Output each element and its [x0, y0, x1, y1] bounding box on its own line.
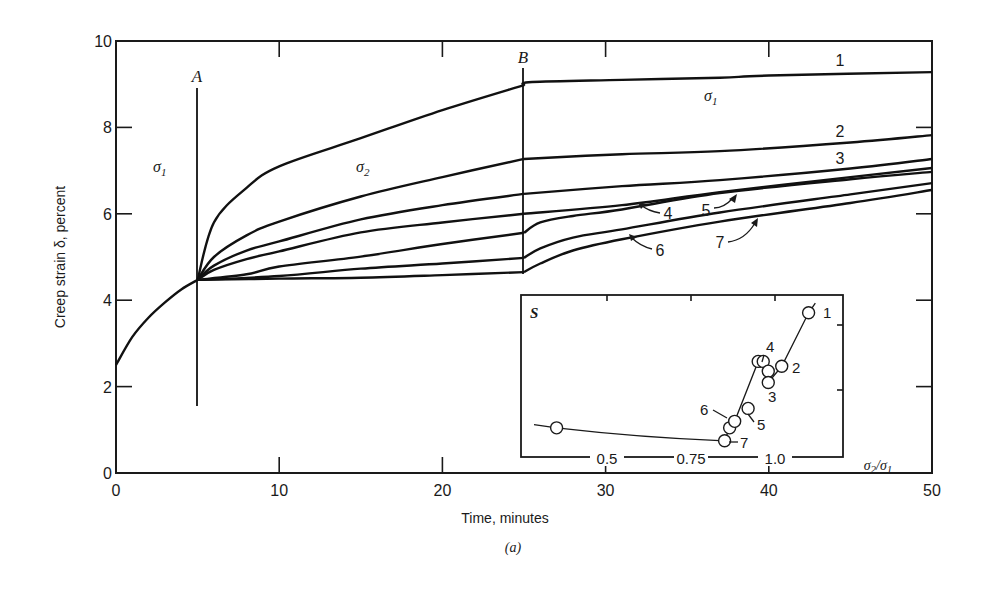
inset-point-marker — [551, 422, 563, 434]
inset-label-6: 6 — [700, 401, 708, 418]
curve-4-sigma2 — [198, 214, 524, 280]
curve-3-sigma2 — [198, 194, 524, 280]
inset-x-tick-label: 0.5 — [597, 450, 618, 467]
inset-label-3: 3 — [768, 388, 776, 405]
curve-label-1: 1 — [836, 52, 845, 69]
x-tick-label: 50 — [923, 482, 941, 499]
sigma1-right-label: σ1 — [704, 87, 717, 107]
y-tick-label: 6 — [103, 206, 112, 223]
inset-point-marker — [776, 360, 788, 372]
marker-label-b: B — [518, 48, 529, 67]
inset-y-label: S — [530, 305, 538, 321]
inset-point-marker — [729, 415, 741, 427]
inset-label-1: 1 — [823, 304, 831, 321]
chart-canvas: 01020304050 0246810 Time, minutes (a) Cr… — [0, 0, 984, 592]
inset-plot: 0.50.751.0 S σ2/σ1 1 2 3 4 5 6 7 — [521, 295, 892, 475]
y-tick-label: 10 — [94, 33, 112, 50]
curve-label-7: 7 — [716, 234, 725, 251]
arrowhead-6-icon — [629, 234, 637, 241]
curve-1-sigma1 — [522, 72, 932, 85]
y-axis-label: Creep strain δ, percent — [52, 186, 68, 329]
inset-point-marker — [803, 307, 815, 319]
inset-x-tick-label: 0.75 — [676, 450, 705, 467]
y-tick-label: 8 — [103, 119, 112, 136]
y-tick-label: 4 — [103, 292, 112, 309]
curve-label-4: 4 — [664, 205, 673, 222]
x-tick-label: 0 — [112, 482, 121, 499]
x-axis-label: Time, minutes — [461, 510, 548, 526]
curve-initial — [116, 280, 198, 365]
inset-label-7: 7 — [740, 434, 748, 451]
x-tick-label: 40 — [760, 482, 778, 499]
curve-label-5: 5 — [702, 202, 711, 219]
inset-point-marker — [742, 402, 754, 414]
x-tick-label: 10 — [270, 482, 288, 499]
x-tick-label: 30 — [597, 482, 615, 499]
y-tick-label: 0 — [103, 465, 112, 482]
inset-label-5: 5 — [757, 416, 765, 433]
inset-x-tick-label: 1.0 — [765, 450, 786, 467]
inset-point-marker — [762, 376, 774, 388]
curve-label-6: 6 — [656, 242, 665, 259]
curve-label-2: 2 — [836, 123, 845, 140]
curve-label-3: 3 — [836, 150, 845, 167]
x-tick-label: 20 — [434, 482, 452, 499]
arrow-7-icon — [728, 223, 755, 242]
curve-2-sigma1 — [524, 135, 932, 159]
inset-x-label: σ2/σ1 — [864, 458, 893, 475]
inset-point-marker — [762, 365, 774, 377]
inset-frame — [521, 295, 843, 457]
creep-strain-chart: 01020304050 0246810 Time, minutes (a) Cr… — [0, 0, 984, 592]
sigma1-left-label: σ1 — [153, 158, 166, 178]
figure-caption: (a) — [505, 540, 522, 556]
y-tick-label: 2 — [103, 379, 112, 396]
arrowhead-7-icon — [751, 218, 758, 227]
marker-label-a: A — [191, 67, 203, 86]
inset-label-2: 2 — [792, 359, 800, 376]
sigma2-label: σ2 — [356, 158, 370, 178]
arrow-6-icon — [632, 238, 652, 249]
inset-point-marker — [719, 435, 731, 447]
inset-label-4: 4 — [766, 338, 774, 355]
